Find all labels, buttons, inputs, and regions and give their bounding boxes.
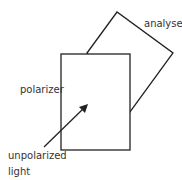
unpolarized-light-label-line1: unpolarized	[8, 150, 67, 162]
polarizer-sheet	[61, 54, 130, 150]
unpolarized-light-label-line2: light	[8, 166, 30, 178]
analyser-label: analyser	[144, 18, 182, 30]
polarizer-label: polarizer	[20, 84, 64, 96]
